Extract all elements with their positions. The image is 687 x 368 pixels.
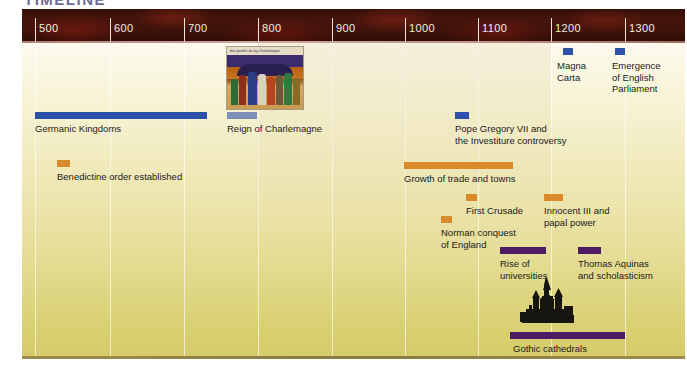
manuscript-figure-2 bbox=[248, 72, 257, 105]
reign-of-charlemagne-image: des paroles du roy Charlemaigne bbox=[227, 47, 303, 109]
event-bar-12 bbox=[510, 332, 625, 339]
manuscript-figure-3 bbox=[258, 74, 266, 105]
column-wash-3 bbox=[478, 43, 551, 258]
manuscript-figure-7 bbox=[293, 78, 300, 105]
event-bar-8 bbox=[563, 48, 573, 55]
cathedral-svg bbox=[516, 276, 578, 328]
event-label-0: Germanic Kingdoms bbox=[35, 123, 121, 135]
century-axis-band: 5006007008009001000110012001300 bbox=[22, 9, 685, 43]
event-bar-3 bbox=[455, 112, 469, 119]
axis-tick-label-500: 500 bbox=[39, 22, 59, 34]
axis-tick-1300 bbox=[625, 18, 626, 43]
timeline-body: Germanic KingdomsReign of CharlemagneBen… bbox=[22, 43, 685, 359]
event-bar-2 bbox=[57, 160, 70, 167]
axis-tick-label-1300: 1300 bbox=[629, 22, 655, 34]
event-bar-7 bbox=[544, 194, 563, 201]
title-strip: TIMELINE bbox=[0, 0, 687, 8]
event-bar-4 bbox=[404, 162, 513, 169]
axis-tick-label-900: 900 bbox=[336, 22, 356, 34]
column-wash-2 bbox=[405, 43, 478, 258]
axis-tick-1000 bbox=[405, 18, 406, 43]
event-label-2: Benedictine order established bbox=[57, 171, 182, 183]
event-label-9: Emergence of English Parliament bbox=[612, 60, 661, 95]
column-wash-1 bbox=[332, 43, 405, 258]
event-label-7: Innocent III and papal power bbox=[544, 205, 610, 228]
manuscript-figure-6 bbox=[284, 73, 292, 105]
event-label-1: Reign of Charlemagne bbox=[227, 123, 322, 135]
gridline-500 bbox=[35, 43, 36, 356]
gridline-1000 bbox=[405, 43, 406, 356]
manuscript-figure-0 bbox=[231, 79, 238, 105]
gridline-900 bbox=[332, 43, 333, 356]
left-margin bbox=[0, 0, 22, 368]
axis-tick-label-700: 700 bbox=[188, 22, 208, 34]
manuscript-scene bbox=[227, 55, 303, 109]
event-label-12: Gothic cathedrals bbox=[513, 343, 587, 355]
axis-tick-1200 bbox=[551, 18, 552, 43]
axis-tick-800 bbox=[258, 18, 259, 43]
axis-tick-label-1200: 1200 bbox=[555, 22, 581, 34]
event-label-3: Pope Gregory VII and the Investiture con… bbox=[455, 123, 566, 146]
event-bar-9 bbox=[615, 48, 625, 55]
event-label-4: Growth of trade and towns bbox=[404, 173, 515, 185]
gridline-600 bbox=[110, 43, 111, 356]
axis-tick-1100 bbox=[478, 18, 479, 43]
timeline-infographic: TIMELINE 5006007008009001000110012001300… bbox=[0, 0, 687, 368]
page-title: TIMELINE bbox=[24, 0, 106, 8]
gridline-1100 bbox=[478, 43, 479, 356]
event-bar-10 bbox=[500, 247, 546, 254]
event-bar-6 bbox=[441, 216, 452, 223]
event-bar-11 bbox=[578, 247, 601, 254]
axis-tick-label-1000: 1000 bbox=[409, 22, 435, 34]
manuscript-figure-1 bbox=[239, 75, 246, 105]
event-bar-0 bbox=[35, 112, 207, 119]
manuscript-caption-text: des paroles du roy Charlemaigne bbox=[230, 47, 280, 55]
event-label-11: Thomas Aquinas and scholasticism bbox=[578, 258, 653, 281]
gridline-700 bbox=[184, 43, 185, 356]
event-bar-1 bbox=[227, 112, 257, 119]
axis-tick-900 bbox=[332, 18, 333, 43]
gothic-cathedral-silhouette bbox=[516, 276, 578, 328]
event-bar-5 bbox=[466, 194, 477, 201]
axis-tick-label-1100: 1100 bbox=[482, 22, 507, 34]
axis-tick-label-800: 800 bbox=[262, 22, 282, 34]
event-label-8: Magna Carta bbox=[557, 60, 586, 83]
manuscript-caption-strip: des paroles du roy Charlemaigne bbox=[227, 47, 303, 55]
manuscript-figure-4 bbox=[267, 77, 275, 105]
axis-tick-700 bbox=[184, 18, 185, 43]
axis-tick-label-600: 600 bbox=[114, 22, 134, 34]
manuscript-figure-5 bbox=[276, 75, 283, 105]
event-label-5: First Crusade bbox=[466, 205, 523, 217]
axis-tick-600 bbox=[110, 18, 111, 43]
axis-tick-500 bbox=[35, 18, 36, 43]
